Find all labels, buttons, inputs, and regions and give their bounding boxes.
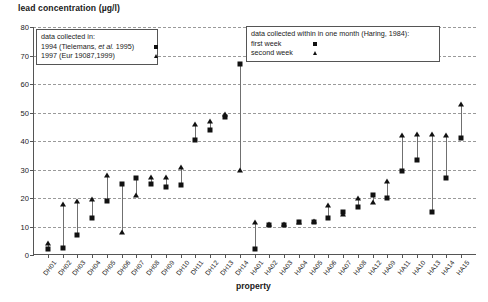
- data-point-triangle: [266, 221, 272, 226]
- data-point-connector: [402, 135, 403, 171]
- data-point-square: [178, 183, 183, 188]
- x-tick-mark: [107, 254, 108, 258]
- data-point-square: [134, 176, 139, 181]
- x-tick-label: DH13: [219, 259, 235, 277]
- data-point-triangle: [296, 220, 302, 225]
- x-tick-mark: [328, 254, 329, 258]
- data-point-square: [355, 204, 360, 209]
- data-point-square: [400, 168, 405, 173]
- data-point-triangle: [133, 193, 139, 198]
- gridline: [33, 84, 476, 85]
- y-tick-label: 20: [21, 194, 29, 203]
- x-tick-mark: [461, 254, 462, 258]
- gridline: [33, 170, 476, 171]
- data-point-triangle: [443, 133, 449, 138]
- data-point-triangle: [104, 173, 110, 178]
- legend-right-row-second-week: second week: [251, 48, 435, 58]
- data-point-triangle: [429, 131, 435, 136]
- data-point-triangle: [119, 230, 125, 235]
- x-tick-label: DH06: [115, 259, 131, 277]
- x-tick-mark: [181, 254, 182, 258]
- x-tick-mark: [432, 254, 433, 258]
- x-tick-mark: [343, 254, 344, 258]
- y-tick-label: 0: [25, 251, 29, 260]
- data-point-square: [326, 215, 331, 220]
- data-point-triangle: [74, 198, 80, 203]
- x-tick-label: HA01: [248, 259, 264, 276]
- data-point-square: [208, 127, 213, 132]
- y-tick-label: 10: [21, 222, 29, 231]
- data-point-triangle: [370, 200, 376, 205]
- data-point-square: [90, 215, 95, 220]
- data-point-triangle: [414, 131, 420, 136]
- data-point-square: [193, 137, 198, 142]
- x-tick-label: HA05: [307, 259, 323, 276]
- legend-left-row-1997: 1997 (Eur 19087,1999): [41, 51, 153, 61]
- data-point-triangle: [192, 121, 198, 126]
- data-point-square: [444, 176, 449, 181]
- x-tick-label: DH09: [160, 259, 176, 277]
- x-tick-mark: [122, 254, 123, 258]
- legend-right-label-first-week: first week: [251, 39, 281, 48]
- legend-right-row-first-week: first week: [251, 39, 435, 49]
- x-tick-label: DH07: [130, 259, 146, 277]
- data-point-square: [459, 136, 464, 141]
- legend-left-title: data collected in:: [41, 32, 153, 42]
- legend-left-label-1997: 1997 (Eur 19087,1999): [41, 51, 115, 60]
- x-tick-label: HA03: [278, 259, 294, 276]
- y-tick-mark: [30, 170, 34, 171]
- x-tick-label: HA07: [337, 259, 353, 276]
- x-tick-mark: [358, 254, 359, 258]
- triangle-marker-icon: [154, 54, 158, 58]
- legend-left-label-1994-italic: et al.: [98, 42, 114, 51]
- x-tick-mark: [225, 254, 226, 258]
- x-tick-label: HA02: [263, 259, 279, 276]
- x-tick-mark: [387, 254, 388, 258]
- y-tick-mark: [30, 56, 34, 57]
- x-tick-mark: [48, 254, 49, 258]
- y-tick-label: 80: [21, 23, 29, 32]
- y-axis-title: lead concentration (µg/l): [18, 3, 120, 13]
- x-tick-label: DH04: [86, 259, 102, 277]
- data-point-connector: [461, 104, 462, 138]
- x-tick-mark: [77, 254, 78, 258]
- legend-right-label-second-week: second week: [251, 48, 293, 57]
- x-tick-mark: [402, 254, 403, 258]
- x-tick-label: DH02: [56, 259, 72, 277]
- x-tick-mark: [255, 254, 256, 258]
- x-tick-mark: [166, 254, 167, 258]
- legend-left-label-1994: 1994 (Tielemans,: [41, 42, 98, 51]
- data-point-triangle: [222, 111, 228, 116]
- data-point-square: [237, 62, 242, 67]
- data-point-square: [429, 210, 434, 215]
- x-tick-mark: [63, 254, 64, 258]
- x-tick-mark: [136, 254, 137, 258]
- square-marker-icon: [154, 45, 158, 49]
- data-point-connector: [446, 135, 447, 178]
- data-point-triangle: [178, 164, 184, 169]
- triangle-marker-icon: [313, 51, 317, 55]
- data-point-triangle: [311, 218, 317, 223]
- lead-concentration-chart: lead concentration (µg/l) property 01020…: [0, 0, 488, 302]
- data-point-square: [252, 247, 257, 252]
- y-tick-mark: [30, 227, 34, 228]
- data-point-square: [45, 247, 50, 252]
- y-tick-label: 60: [21, 80, 29, 89]
- y-tick-label: 40: [21, 137, 29, 146]
- gridline: [33, 198, 476, 199]
- x-tick-label: HA15: [455, 259, 471, 276]
- x-tick-label: HA14: [440, 259, 456, 276]
- x-tick-mark: [92, 254, 93, 258]
- y-tick-mark: [30, 113, 34, 114]
- legend-left-row-1994: 1994 (Tielemans, et al. 1995): [41, 42, 153, 52]
- x-tick-mark: [269, 254, 270, 258]
- data-point-connector: [107, 175, 108, 201]
- legend-data-collected-one-month: data collected within in one month (Hari…: [246, 26, 440, 62]
- x-tick-mark: [314, 254, 315, 258]
- data-point-connector: [255, 222, 256, 249]
- data-point-square: [60, 245, 65, 250]
- x-tick-mark: [210, 254, 211, 258]
- data-point-triangle: [458, 101, 464, 106]
- data-point-connector: [240, 64, 241, 169]
- x-tick-label: HA13: [426, 259, 442, 276]
